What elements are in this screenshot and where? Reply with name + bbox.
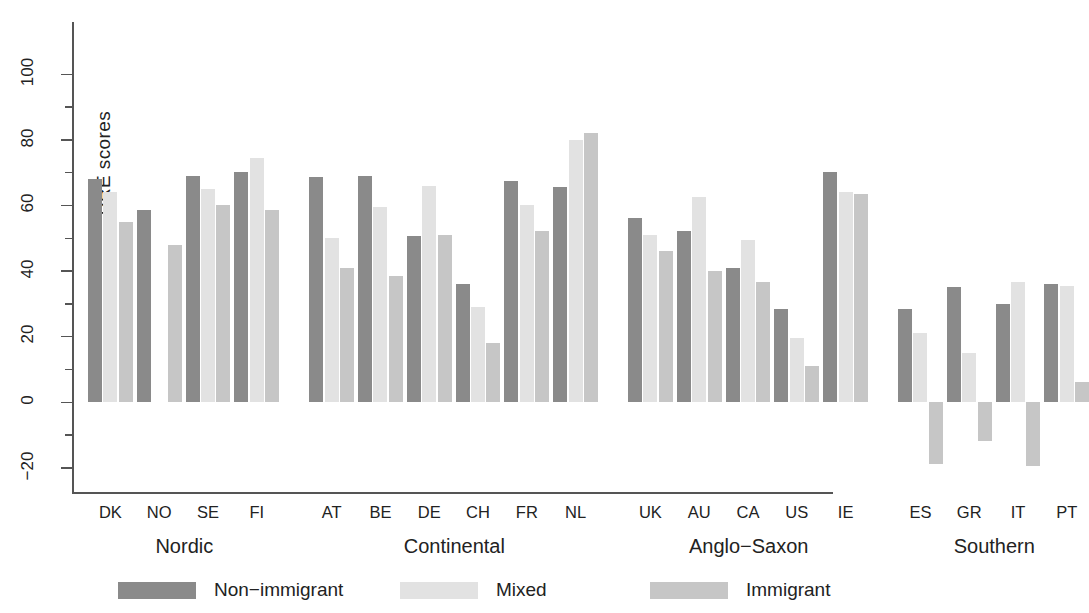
bar-nl-mixed	[569, 140, 583, 402]
x-tick-label-it: IT	[1011, 503, 1026, 522]
bar-dk-non-immigrant	[88, 179, 102, 402]
bar-ca-non-immigrant	[726, 268, 740, 402]
legend-swatch-mixed	[400, 582, 478, 599]
bar-ie-mixed	[839, 192, 853, 402]
bar-fr-mixed	[520, 205, 534, 402]
bar-se-non-immigrant	[186, 176, 200, 402]
x-tick-label-at: AT	[322, 503, 342, 522]
bar-ca-immigrant	[756, 282, 770, 402]
x-tick-label-fi: FI	[249, 503, 264, 522]
bar-gr-immigrant	[978, 402, 992, 441]
bar-au-non-immigrant	[677, 231, 691, 402]
y-tick-minor	[65, 238, 72, 240]
bar-at-non-immigrant	[309, 177, 323, 402]
bar-ie-non-immigrant	[823, 172, 837, 402]
y-tick-major	[61, 270, 72, 272]
bar-nl-immigrant	[584, 133, 598, 402]
bar-us-non-immigrant	[774, 309, 788, 402]
bar-fr-non-immigrant	[504, 181, 518, 402]
y-tick-label: 40	[18, 247, 38, 291]
bar-ie-immigrant	[854, 194, 868, 402]
bar-it-non-immigrant	[996, 304, 1010, 402]
bar-ch-non-immigrant	[456, 284, 470, 402]
y-tick-minor	[65, 172, 72, 174]
bar-pt-immigrant	[1075, 382, 1089, 402]
x-tick-label-de: DE	[418, 503, 441, 522]
y-tick-major	[61, 205, 72, 207]
x-tick-label-se: SE	[197, 503, 219, 522]
y-tick-minor	[65, 434, 72, 436]
y-tick-major	[61, 336, 72, 338]
x-tick-label-nl: NL	[565, 503, 586, 522]
legend-swatch-non-immigrant	[118, 582, 196, 599]
y-axis-line	[72, 22, 74, 492]
bar-it-mixed	[1011, 282, 1025, 402]
y-tick-minor	[65, 369, 72, 371]
y-tick-major	[61, 139, 72, 141]
bar-at-immigrant	[340, 268, 354, 402]
bar-be-non-immigrant	[358, 176, 372, 402]
x-tick-label-be: BE	[369, 503, 391, 522]
y-tick-major	[61, 402, 72, 404]
bar-uk-non-immigrant	[628, 218, 642, 402]
bar-fi-mixed	[250, 158, 264, 402]
y-tick-label: 100	[18, 50, 38, 94]
y-tick-label: 20	[18, 312, 38, 356]
bar-es-mixed	[913, 333, 927, 402]
bar-ch-immigrant	[486, 343, 500, 402]
bar-pt-mixed	[1060, 286, 1074, 402]
bar-se-mixed	[201, 189, 215, 402]
x-tick-label-no: NO	[147, 503, 172, 522]
bar-es-non-immigrant	[898, 309, 912, 402]
y-tick-label: 80	[18, 116, 38, 160]
bar-ca-mixed	[741, 240, 755, 402]
legend-label-immigrant: Immigrant	[746, 578, 830, 602]
x-tick-label-fr: FR	[516, 503, 538, 522]
bar-dk-immigrant	[119, 222, 133, 402]
y-tick-minor	[65, 106, 72, 108]
chart-legend: Non−immigrantMixedImmigrant	[0, 578, 839, 604]
legend-swatch-immigrant	[650, 582, 728, 599]
bar-at-mixed	[325, 238, 339, 402]
bar-uk-mixed	[643, 235, 657, 402]
legend-label-non-immigrant: Non−immigrant	[214, 578, 343, 602]
group-label-nordic: Nordic	[155, 535, 213, 558]
y-tick-label: 60	[18, 181, 38, 225]
y-tick-major	[61, 467, 72, 469]
x-tick-label-ca: CA	[737, 503, 760, 522]
bar-fi-non-immigrant	[234, 172, 248, 402]
x-tick-label-us: US	[785, 503, 808, 522]
bar-fr-immigrant	[535, 231, 549, 402]
group-label-anglo-saxon: Anglo−Saxon	[689, 535, 809, 558]
bar-au-immigrant	[708, 271, 722, 402]
bar-nl-non-immigrant	[553, 187, 567, 402]
legend-label-mixed: Mixed	[496, 578, 547, 602]
x-tick-label-pt: PT	[1056, 503, 1077, 522]
bar-no-immigrant	[168, 245, 182, 402]
bar-fi-immigrant	[265, 210, 279, 402]
bar-se-immigrant	[216, 205, 230, 402]
bar-de-mixed	[422, 186, 436, 402]
y-tick-label: −20	[18, 444, 38, 488]
bar-us-mixed	[790, 338, 804, 402]
bar-us-immigrant	[805, 366, 819, 402]
bar-it-immigrant	[1026, 402, 1040, 466]
bar-uk-immigrant	[659, 251, 673, 402]
bar-no-non-immigrant	[137, 210, 151, 402]
bar-es-immigrant	[929, 402, 943, 464]
y-tick-major	[61, 74, 72, 76]
bar-pt-non-immigrant	[1044, 284, 1058, 402]
bar-be-immigrant	[389, 276, 403, 402]
y-tick-minor	[65, 303, 72, 305]
bar-dk-mixed	[103, 192, 117, 402]
group-label-southern: Southern	[954, 535, 1035, 558]
bar-au-mixed	[692, 197, 706, 402]
x-tick-label-gr: GR	[957, 503, 982, 522]
bar-ch-mixed	[471, 307, 485, 402]
x-tick-label-dk: DK	[99, 503, 122, 522]
bar-gr-mixed	[962, 353, 976, 402]
group-label-continental: Continental	[404, 535, 505, 558]
x-tick-label-es: ES	[909, 503, 931, 522]
x-tick-label-ie: IE	[838, 503, 854, 522]
